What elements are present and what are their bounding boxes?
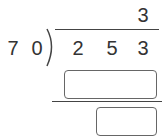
dividend-digit-hundreds: 2 [71,38,85,58]
divisor-digit-tens: 7 [6,38,20,58]
division-bracket-curve [44,28,58,68]
divisor-digit-ones: 0 [30,38,44,58]
quotient-digit: 3 [136,5,150,25]
remainder-answer-box[interactable] [96,107,157,136]
division-bracket-line [55,29,159,30]
dividend-digit-tens: 5 [105,38,119,58]
subtraction-line [52,101,162,102]
dividend-digit-ones: 3 [136,38,150,58]
product-answer-box[interactable] [64,70,157,99]
